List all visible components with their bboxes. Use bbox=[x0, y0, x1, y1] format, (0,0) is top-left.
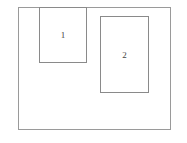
region-1-label: 1 bbox=[61, 30, 66, 40]
region-2-label: 2 bbox=[122, 50, 127, 60]
region-2: 2 bbox=[100, 16, 149, 93]
region-1: 1 bbox=[39, 7, 87, 63]
